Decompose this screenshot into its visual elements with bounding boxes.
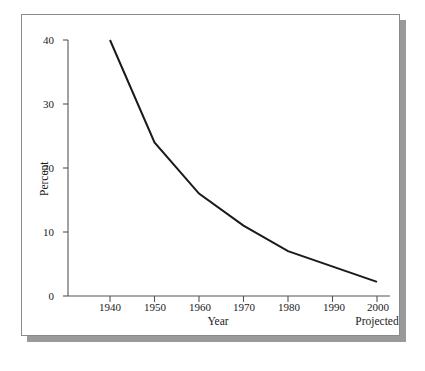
y-tick-label-40: 40 <box>34 35 54 46</box>
x-tick-label-1990: 1990 <box>312 302 356 313</box>
x-tick-label-1960: 1960 <box>178 302 222 313</box>
y-tick-label-30: 30 <box>34 99 54 110</box>
y-tick-label-0: 0 <box>34 291 54 302</box>
x-tick-label-1970: 1970 <box>222 302 266 313</box>
x-tick-label-1940: 1940 <box>88 302 132 313</box>
y-axis-title: Percent <box>38 162 50 196</box>
figure-container: 40 30 20 10 0 Percent 1940 1950 1960 197… <box>0 0 425 371</box>
projected-note-label: Projected <box>347 316 407 328</box>
data-series-line <box>110 40 377 282</box>
y-tick-label-10: 10 <box>34 227 54 238</box>
x-axis-title: Year <box>196 316 240 328</box>
x-tick-label-1950: 1950 <box>133 302 177 313</box>
x-tick-label-2000: 2000 <box>356 302 400 313</box>
y-axis-ticks <box>63 40 68 296</box>
x-tick-label-1980: 1980 <box>267 302 311 313</box>
